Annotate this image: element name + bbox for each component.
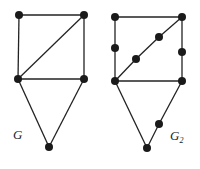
graph-edge — [136, 37, 159, 59]
graph-vertex — [80, 11, 88, 19]
graph-vertex — [111, 13, 119, 21]
graph-vertex — [155, 120, 163, 128]
graph-edge — [18, 15, 19, 79]
graph-vertex — [45, 143, 53, 151]
graph-edge — [18, 15, 84, 79]
graph-vertex — [111, 77, 119, 85]
graph-edge — [159, 81, 182, 124]
graph-edge — [159, 17, 182, 37]
graph-label: G2 — [170, 128, 183, 145]
graph-g2: G2 — [111, 13, 186, 152]
graph-diagram: GG2 — [0, 0, 200, 169]
graph-edge — [18, 79, 49, 147]
graph-label: G — [13, 127, 23, 142]
graph-vertex — [178, 77, 186, 85]
graph-vertex — [14, 75, 22, 83]
graph-vertex — [178, 13, 186, 21]
graph-edge — [115, 59, 136, 81]
graph-edge — [115, 81, 147, 148]
graph-edge — [49, 79, 84, 147]
graph-vertex — [143, 144, 151, 152]
graph-vertex — [132, 55, 140, 63]
graph-vertex — [111, 44, 119, 52]
graph-vertex — [15, 11, 23, 19]
graph-vertex — [178, 48, 186, 56]
graph-vertex — [155, 33, 163, 41]
graph-edge — [147, 124, 159, 148]
graph-g: G — [13, 11, 88, 151]
graph-vertex — [80, 75, 88, 83]
